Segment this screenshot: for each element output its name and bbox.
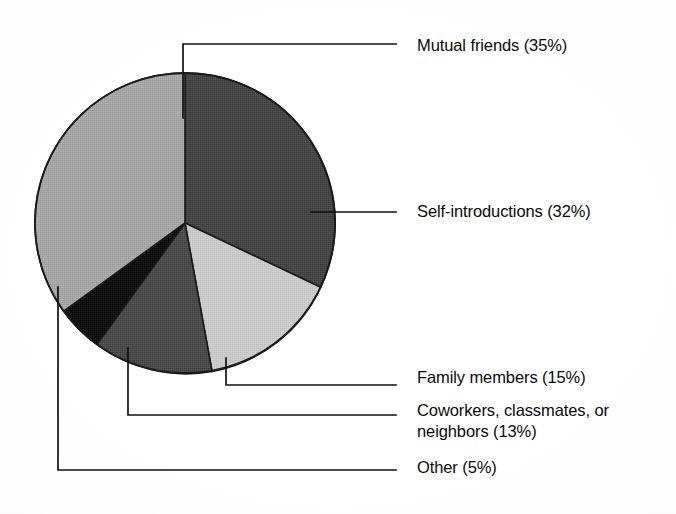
pie-label-other: Other (5%): [417, 457, 497, 478]
pie-label-self-introductions: Self-introductions (32%): [417, 201, 591, 222]
pie-label-family-members: Family members (15%): [417, 367, 586, 388]
pie-label-mutual-friends: Mutual friends (35%): [417, 35, 567, 56]
leader-line-family-members: [226, 358, 396, 385]
pie-slices: [35, 73, 335, 374]
pie-label-coworkers: Coworkers, classmates, or neighbors (13%…: [417, 400, 647, 442]
